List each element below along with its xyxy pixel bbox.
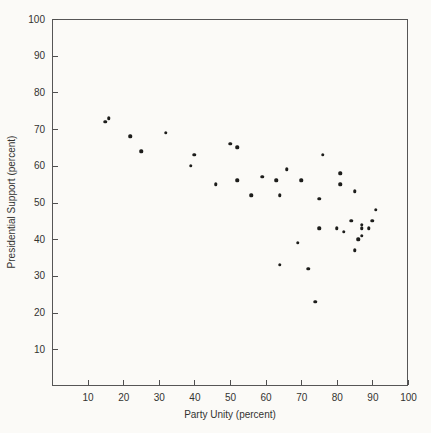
data-point [129, 135, 133, 139]
y-axis-tick-label: 60 [15, 161, 45, 171]
data-point [374, 208, 378, 212]
data-point [360, 226, 364, 230]
data-point [299, 179, 303, 183]
data-point [296, 241, 300, 245]
data-point [164, 131, 168, 135]
y-axis-tick-label: 20 [15, 308, 45, 318]
y-axis-tick-label: 90 [15, 51, 45, 61]
data-point [278, 193, 282, 197]
data-point [321, 153, 325, 157]
y-axis-tick [53, 56, 58, 57]
x-axis-tick [266, 380, 267, 385]
y-axis-tick-label: 80 [15, 88, 45, 98]
y-axis-tick-label: 70 [15, 125, 45, 135]
data-point [307, 267, 311, 271]
data-point [214, 182, 218, 186]
data-point [335, 226, 339, 230]
x-axis-tick [337, 380, 338, 385]
data-point [189, 164, 193, 168]
x-axis-tick-label: 20 [109, 393, 139, 403]
data-point [353, 190, 357, 194]
data-point [349, 219, 353, 223]
y-axis-tick [53, 166, 58, 167]
x-axis-tick-label: 40 [180, 393, 210, 403]
x-axis-title: Party Unity (percent) [52, 409, 408, 420]
data-point [275, 179, 279, 183]
plot-area [52, 19, 408, 386]
data-point [235, 179, 239, 183]
data-point [342, 230, 346, 234]
data-point [353, 248, 357, 252]
data-point [250, 193, 254, 197]
data-point [339, 171, 343, 175]
data-point [193, 153, 197, 157]
y-axis-tick [53, 92, 58, 93]
x-axis-tick-label: 70 [287, 393, 317, 403]
data-point [339, 182, 343, 186]
x-axis-tick-label: 100 [394, 393, 424, 403]
x-axis-tick [230, 380, 231, 385]
data-point [317, 226, 321, 230]
data-point [260, 175, 264, 179]
scatter-plot-figure: Presidential Support (percent) Party Uni… [0, 0, 431, 433]
x-axis-tick-label: 80 [322, 393, 352, 403]
x-axis-tick-label: 50 [216, 393, 246, 403]
y-axis-tick-label: 10 [15, 345, 45, 355]
x-axis-tick [194, 380, 195, 385]
y-axis-tick-label: 40 [15, 235, 45, 245]
data-point [356, 237, 360, 241]
x-axis-tick-label: 30 [144, 393, 174, 403]
y-axis-tick [53, 203, 58, 204]
y-axis-tick [53, 19, 58, 20]
data-point [360, 234, 364, 238]
y-axis-tick [53, 129, 58, 130]
x-axis-tick [372, 380, 373, 385]
data-point [235, 146, 239, 150]
x-axis-tick [408, 380, 409, 385]
y-axis-tick [53, 349, 58, 350]
x-axis-tick [301, 380, 302, 385]
x-axis-tick-label: 10 [73, 393, 103, 403]
data-point [367, 226, 371, 230]
data-point [104, 120, 108, 124]
data-point [314, 300, 318, 304]
y-axis-tick [53, 239, 58, 240]
data-point [139, 149, 143, 153]
y-axis-tick-label: 50 [15, 198, 45, 208]
x-axis-tick [159, 380, 160, 385]
y-axis-tick-label: 30 [15, 271, 45, 281]
data-point [317, 197, 321, 201]
data-point [228, 142, 232, 146]
data-point [285, 168, 289, 172]
x-axis-tick-label: 60 [251, 393, 281, 403]
y-axis-tick [53, 313, 58, 314]
data-point [278, 263, 282, 267]
data-point [107, 116, 111, 120]
data-point [371, 219, 375, 223]
y-axis-tick [53, 276, 58, 277]
x-axis-tick [123, 380, 124, 385]
y-axis-tick-label: 100 [15, 15, 45, 25]
x-axis-tick [88, 380, 89, 385]
x-axis-tick-label: 90 [358, 393, 388, 403]
